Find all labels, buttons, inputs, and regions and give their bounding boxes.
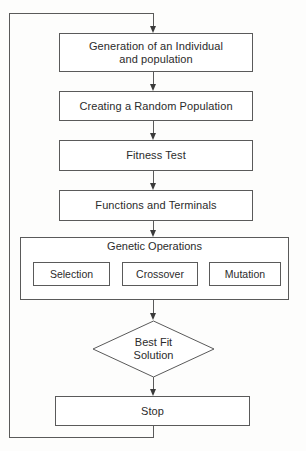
- node-crossover[interactable]: Crossover: [122, 262, 198, 286]
- stop-to-feedback-connector: [153, 426, 154, 438]
- group-genetic-operations-title: Genetic Operations: [20, 240, 289, 252]
- arrowhead-genetic-to-bestfit-icon: [150, 313, 156, 320]
- node-generation-label-line1: Generation of an Individual: [89, 40, 223, 52]
- node-generation-label-line2: and population: [119, 53, 193, 65]
- feedback-top-segment: [9, 13, 154, 14]
- node-best-fit-solution[interactable]: Best Fit Solution: [92, 320, 215, 378]
- node-mutation[interactable]: Mutation: [209, 262, 281, 286]
- node-best-fit-label-line1: Best Fit: [135, 336, 172, 349]
- node-creating-random-population-label: Creating a Random Population: [79, 100, 232, 113]
- node-generation-label: Generation of an Individual and populati…: [89, 40, 223, 66]
- flowchart-canvas: Generation of an Individual and populati…: [0, 0, 306, 451]
- node-stop-label: Stop: [141, 405, 164, 418]
- arrowhead-bestfit-to-stop-icon: [150, 389, 156, 396]
- entry-arrowhead-icon: [150, 26, 156, 33]
- node-mutation-label: Mutation: [225, 268, 265, 280]
- arrowhead-functions-to-genetic-icon: [150, 230, 156, 237]
- entry-arrow-line: [153, 13, 154, 27]
- arrowhead-fitness-to-functions-icon: [150, 183, 156, 190]
- node-best-fit-solution-label: Best Fit Solution: [92, 320, 215, 378]
- node-selection[interactable]: Selection: [33, 262, 110, 286]
- arrowhead-creating-to-fitness-icon: [150, 133, 156, 140]
- feedback-left-segment: [9, 13, 10, 438]
- node-selection-label: Selection: [50, 268, 93, 280]
- node-stop[interactable]: Stop: [55, 396, 250, 426]
- node-generation-of-individual[interactable]: Generation of an Individual and populati…: [59, 33, 253, 72]
- feedback-bottom-segment: [9, 437, 154, 438]
- node-functions-and-terminals[interactable]: Functions and Terminals: [59, 190, 253, 221]
- node-fitness-test-label: Fitness Test: [126, 149, 186, 162]
- connector-genetic-to-bestfit: [153, 300, 154, 314]
- node-creating-random-population[interactable]: Creating a Random Population: [59, 91, 253, 121]
- node-fitness-test[interactable]: Fitness Test: [59, 140, 253, 171]
- arrowhead-generation-to-creating-icon: [150, 84, 156, 91]
- node-functions-and-terminals-label: Functions and Terminals: [95, 199, 216, 212]
- node-crossover-label: Crossover: [136, 268, 184, 280]
- node-best-fit-label-line2: Solution: [134, 349, 174, 362]
